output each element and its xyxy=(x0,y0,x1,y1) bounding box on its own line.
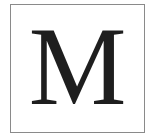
letter-glyph: M xyxy=(12,5,142,132)
letter-tile: M xyxy=(10,4,145,133)
